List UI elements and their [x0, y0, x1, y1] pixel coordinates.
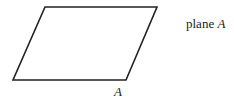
- plane-diagram: A plane A: [0, 0, 234, 100]
- plane-parallelogram: [13, 7, 157, 80]
- caption-word: plane: [186, 16, 214, 31]
- vertex-label: A: [113, 84, 122, 99]
- caption-variable: A: [216, 16, 225, 31]
- plane-caption: plane A: [186, 16, 225, 31]
